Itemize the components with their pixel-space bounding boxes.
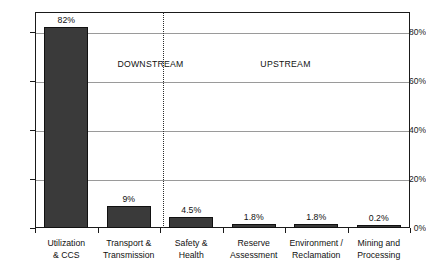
y-tick-mark-40 [30,130,35,131]
y-tick-mark-80 [30,32,35,33]
bar-value-label-4: 1.8% [285,212,348,222]
x-tick-mark-3 [223,228,224,233]
x-tick-mark-1 [98,228,99,233]
x-tick-mark-0 [35,228,36,233]
y-tick-mark-20 [30,179,35,180]
x-category-line: Reclamation [285,250,348,262]
gridline-80 [36,33,409,34]
y-tick-mark-60 [30,81,35,82]
bar-value-label-5: 0.2% [348,213,411,223]
x-tick-mark-6 [410,228,411,233]
x-category-line: Safety & [160,238,223,250]
bar-5 [357,225,401,228]
x-category-label-0: Utilization& CCS [35,238,98,261]
section-label-downstream: DOWNSTREAM [91,59,211,69]
x-category-line: Assessment [223,250,286,262]
x-category-line: Transport & [98,238,161,250]
y-tick-label-60: 60% [394,76,426,85]
gridline-60 [36,82,409,83]
x-category-line: & CCS [35,250,98,262]
gridline-20 [36,180,409,181]
x-category-line: Mining and [348,238,411,250]
x-category-line: Transmission [98,250,161,262]
bar-chart: 0%20%40%60%80% 82%9%4.5%1.8%1.8%0.2% Uti… [0,0,426,277]
x-category-line: Utilization [35,238,98,250]
y-tick-label-40: 40% [394,125,426,134]
x-category-label-3: ReserveAssessment [223,238,286,261]
gridline-40 [36,131,409,132]
x-category-label-2: Safety &Health [160,238,223,261]
y-tick-label-80: 80% [394,27,426,36]
bar-2 [169,217,213,228]
downstream-upstream-divider [163,12,164,228]
x-category-label-4: Environment /Reclamation [285,238,348,261]
x-category-line: Processing [348,250,411,262]
bar-value-label-0: 82% [35,15,98,25]
bar-0 [44,27,88,228]
x-tick-mark-2 [160,228,161,233]
bar-value-label-3: 1.8% [223,212,286,222]
y-tick-label-20: 20% [394,174,426,183]
bar-4 [294,224,338,228]
x-tick-mark-5 [348,228,349,233]
bar-1 [107,206,151,228]
bar-value-label-2: 4.5% [160,205,223,215]
bar-3 [232,224,276,228]
section-label-upstream: UPSTREAM [226,59,346,69]
x-category-line: Environment / [285,238,348,250]
x-tick-mark-4 [285,228,286,233]
bar-value-label-1: 9% [98,194,161,204]
plot-area [35,12,410,228]
x-category-line: Reserve [223,238,286,250]
x-category-line: Health [160,250,223,262]
x-category-label-1: Transport &Transmission [98,238,161,261]
x-category-label-5: Mining andProcessing [348,238,411,261]
